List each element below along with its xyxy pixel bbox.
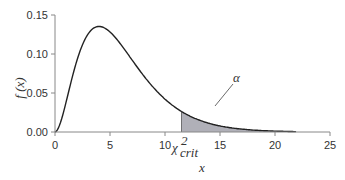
alpha-leader-line xyxy=(215,84,233,106)
x-tick-label: 15 xyxy=(214,139,226,151)
alpha-label: α xyxy=(233,70,241,85)
x-tick-label: 0 xyxy=(52,139,58,151)
y-axis-label: f (x) xyxy=(12,77,27,98)
x-tick-label: 10 xyxy=(159,139,171,151)
chi-crit-subscript: crit xyxy=(180,145,198,160)
chi-crit-symbol: χ xyxy=(170,140,178,155)
chi-square-chart: 05101520250.000.050.100.15 α χ 2 crit x … xyxy=(0,0,345,180)
y-tick-label: 0.05 xyxy=(27,87,48,99)
y-tick-label: 0.10 xyxy=(27,48,48,60)
x-tick-label: 5 xyxy=(107,139,113,151)
density-curve xyxy=(55,26,296,132)
y-tick-label: 0.15 xyxy=(27,9,48,21)
x-tick-label: 25 xyxy=(324,139,336,151)
x-tick-label: 20 xyxy=(269,139,281,151)
y-tick-label: 0.00 xyxy=(27,126,48,138)
x-axis-label: x xyxy=(198,160,205,175)
